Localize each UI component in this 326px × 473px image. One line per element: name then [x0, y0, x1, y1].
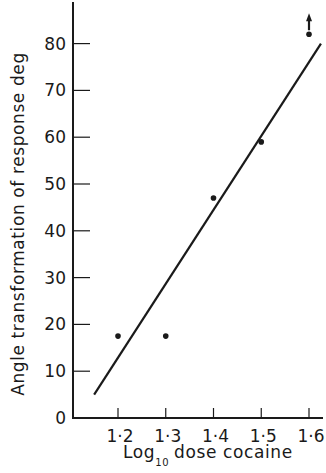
y-tick-label: 80	[44, 34, 66, 54]
y-tick-label: 30	[44, 268, 66, 288]
y-tick-label: 60	[44, 127, 66, 147]
fit-line	[94, 44, 321, 395]
y-tick-label: 70	[44, 80, 66, 100]
x-axis-title-rest: dose cocaine	[174, 442, 293, 462]
arrow-head-icon	[306, 13, 312, 21]
data-point	[115, 333, 121, 339]
dose-response-chart: 01020304050607080 1·21·31·41·51·6 Angle …	[0, 0, 326, 473]
y-tick-label: 50	[44, 174, 66, 194]
x-axis-title: Log10dose cocaine	[123, 442, 293, 468]
x-axis-title-main: Log	[123, 442, 155, 462]
data-point	[306, 31, 312, 37]
data-point	[163, 333, 169, 339]
y-axis-title: Angle transformation of response deg	[8, 52, 28, 396]
regression-line	[94, 44, 321, 395]
y-tick-label: 10	[44, 361, 66, 381]
data-point	[211, 195, 217, 201]
data-points	[115, 13, 312, 339]
y-tick-label: 40	[44, 221, 66, 241]
data-point	[258, 139, 264, 145]
y-tick-label: 20	[44, 314, 66, 334]
x-ticks: 1·21·31·41·51·6	[106, 408, 324, 446]
x-tick-label: 1·6	[297, 426, 324, 446]
y-tick-label: 0	[55, 408, 66, 428]
x-axis-title-subscript: 10	[155, 457, 169, 468]
y-ticks: 01020304050607080	[44, 34, 90, 428]
